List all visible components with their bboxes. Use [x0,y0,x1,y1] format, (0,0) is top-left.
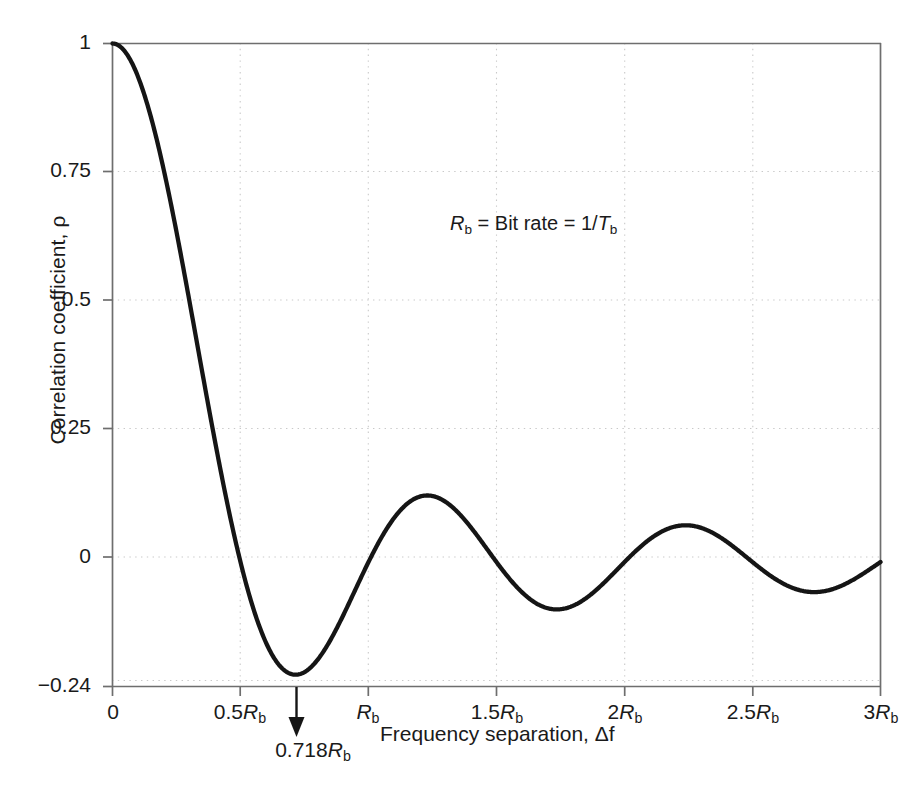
x-tick-label-0: 0 [53,700,173,724]
y-tick-label-1: 1 [0,30,91,54]
x-tick-marks [113,687,881,696]
y-tick-label-05: 0.5 [0,287,91,311]
plot-area-background [112,43,881,687]
minimum-arrow-label: 0.718Rb [253,738,373,764]
y-tick-marks [103,44,112,687]
x-tick-label-05Rb: 0.5Rb [180,700,300,726]
correlation-coefficient-chart [0,0,924,785]
x-tick-label-25Rb: 2.5Rb [693,700,813,726]
y-tick-label-075: 0.75 [0,158,91,182]
y-tick-label-0: 0 [0,544,91,568]
x-tick-label-3Rb: 3Rb [821,700,924,726]
bit-rate-note: Rb = Bit rate = 1/Tb [450,212,617,237]
figure-container: Correlation coefficient, ρ 1 0.75 0.5 0.… [0,0,924,785]
y-tick-label-025: 0.25 [0,415,91,439]
note-symbol-R: R [450,212,464,234]
y-tick-label-m024: −0.24 [0,673,91,697]
note-body: = Bit rate = 1/ [472,212,598,234]
x-axis-title: Frequency separation, Δf [380,722,615,746]
y-axis-title: Correlation coefficient, ρ [46,0,70,680]
